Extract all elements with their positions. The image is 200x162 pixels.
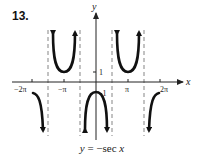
tick-label-one: 1 <box>99 68 103 77</box>
branch-up-right <box>117 33 139 72</box>
branch-down-far-left <box>33 93 43 130</box>
graph-caption: y = −sec x <box>0 142 200 154</box>
y-axis-label: y <box>91 1 97 12</box>
tick-label-pi: π <box>125 85 129 94</box>
x-axis-label: x <box>185 76 191 87</box>
tick-label-2pi: 2π <box>160 85 168 94</box>
tick-label-neg-pi: −π <box>58 85 67 94</box>
branch-up-left <box>53 33 75 72</box>
branch-down-far-right <box>149 93 159 130</box>
graph: −2π −π π 2π 1 −1 x y <box>0 0 200 162</box>
caption-var: x <box>119 142 124 154</box>
caption-eq: = −sec <box>85 142 120 154</box>
tick-label-neg-2pi: −2π <box>14 85 27 94</box>
